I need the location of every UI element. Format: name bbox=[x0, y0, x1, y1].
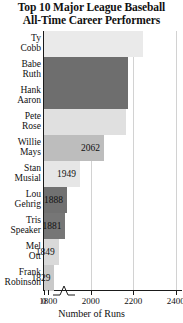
bar[interactable] bbox=[44, 109, 126, 135]
category-label: WillieMays bbox=[0, 137, 41, 158]
category-label: FrankRobinson bbox=[0, 267, 41, 288]
bar-row[interactable] bbox=[44, 57, 182, 83]
category-label-line: Rose bbox=[0, 121, 41, 132]
category-label: TrisSpeaker bbox=[0, 215, 41, 236]
x-axis-tick bbox=[176, 290, 177, 295]
bar-value-label: 1888 bbox=[44, 195, 63, 205]
category-label: StanMusial bbox=[0, 163, 41, 184]
bar-row[interactable]: 1881 bbox=[44, 213, 182, 239]
category-label-line: Stan bbox=[0, 163, 41, 174]
bar-row[interactable]: 1949 bbox=[44, 161, 182, 187]
bar-row[interactable]: 2062 bbox=[44, 135, 182, 161]
category-label-line: Ty bbox=[0, 33, 41, 44]
chart-title-line-2: All-Time Career Performers bbox=[0, 14, 183, 27]
bar-row[interactable]: 1849 bbox=[44, 239, 182, 265]
category-label: LouGehrig bbox=[0, 189, 41, 210]
bar[interactable] bbox=[44, 57, 128, 83]
plot-area: 206219491888188118491829 bbox=[44, 31, 182, 290]
chart-title: Top 10 Major League Baseball All-Time Ca… bbox=[0, 1, 183, 26]
category-label-line: Lou bbox=[0, 189, 41, 200]
bar-row[interactable]: 1888 bbox=[44, 187, 182, 213]
x-axis-title: Number of Runs bbox=[0, 308, 183, 319]
category-label-line: Tris bbox=[0, 215, 41, 226]
x-axis-tick-label: 2400 bbox=[156, 296, 183, 306]
category-label: TyCobb bbox=[0, 33, 41, 54]
category-label: PeteRose bbox=[0, 111, 41, 132]
axis-break-icon bbox=[53, 285, 75, 296]
x-axis-tick bbox=[133, 290, 134, 295]
category-label-line: Willie bbox=[0, 137, 41, 148]
bar-row[interactable] bbox=[44, 31, 182, 57]
x-axis-tick bbox=[48, 290, 49, 295]
x-axis-tick bbox=[44, 290, 45, 295]
category-label: HankAaron bbox=[0, 85, 41, 106]
category-label-line: Cobb bbox=[0, 43, 41, 54]
category-label-line: Frank bbox=[0, 267, 41, 278]
category-label: BabeRuth bbox=[0, 59, 41, 80]
bar[interactable] bbox=[44, 83, 128, 109]
category-label-line: Gehrig bbox=[0, 199, 41, 210]
category-label-line: Musial bbox=[0, 173, 41, 184]
chart-title-line-1: Top 10 Major League Baseball bbox=[0, 1, 183, 14]
bar-value-label: 1881 bbox=[42, 221, 61, 231]
bar[interactable] bbox=[44, 31, 143, 57]
category-label-line: Mel bbox=[0, 241, 41, 252]
bar-value-label: 2062 bbox=[81, 143, 100, 153]
category-label: MelOtt bbox=[0, 241, 41, 262]
x-axis-tick bbox=[91, 290, 92, 295]
category-label-line: Ruth bbox=[0, 69, 41, 80]
category-label-line: Mays bbox=[0, 147, 41, 158]
category-label-line: Babe bbox=[0, 59, 41, 70]
bar-chart: Top 10 Major League Baseball All-Time Ca… bbox=[0, 0, 183, 323]
x-axis-tick-label: 1800 bbox=[28, 296, 68, 306]
bar-value-label: 1949 bbox=[57, 169, 76, 179]
x-axis-tick-label: 2200 bbox=[113, 296, 153, 306]
bar-row[interactable] bbox=[44, 83, 182, 109]
category-label-line: Pete bbox=[0, 111, 41, 122]
category-label-line: Robinson bbox=[0, 277, 41, 288]
category-label-line: Hank bbox=[0, 85, 41, 96]
category-label-line: Ott bbox=[0, 251, 41, 262]
bar-row[interactable] bbox=[44, 109, 182, 135]
x-axis-tick-label: 2000 bbox=[71, 296, 111, 306]
category-label-line: Speaker bbox=[0, 225, 41, 236]
category-label-line: Aaron bbox=[0, 95, 41, 106]
